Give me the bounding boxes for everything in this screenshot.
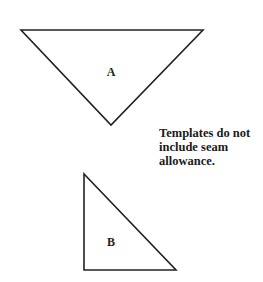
template-piece-a: A xyxy=(21,30,203,125)
triangle-b-outline xyxy=(84,174,176,270)
triangle-a-label: A xyxy=(107,65,116,79)
seam-allowance-note: Templates do not include seam allowance. xyxy=(159,126,263,168)
note-line-1: Templates do not xyxy=(159,126,263,140)
triangle-b-label: B xyxy=(107,235,115,249)
template-piece-b: B xyxy=(84,174,176,270)
note-line-3: allowance. xyxy=(159,154,263,168)
note-line-2: include seam xyxy=(159,140,263,154)
